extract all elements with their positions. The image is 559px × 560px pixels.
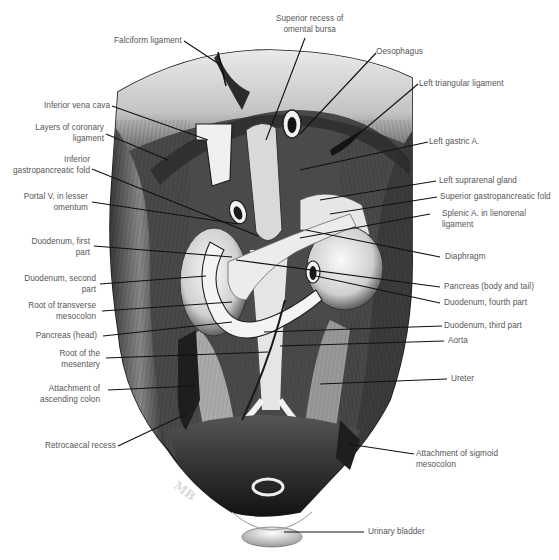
label-root-of-transverse-mesocolon: Root of transverse mesocolon <box>28 301 96 322</box>
label-layers-of-coronary-ligament: Layers of coronary ligament <box>35 123 104 144</box>
label-duodenum-first-part: Duodenum, first part <box>31 237 90 258</box>
label-left-gastric-a: Left gastric A. <box>429 137 479 148</box>
label-portal-v-in-lesser-omentum: Portal V. in lesser omentum <box>24 192 88 213</box>
label-urinary-bladder: Urinary bladder <box>368 527 425 538</box>
label-left-suprarenal-gland: Left suprarenal gland <box>439 176 517 187</box>
label-inferior-vena-cava: Inferior vena cava <box>44 101 110 112</box>
label-superior-recess-of-omental-bursa: Superior recess of omental bursa <box>276 14 343 35</box>
label-duodenum-third-part: Duodenum, third part <box>444 321 522 332</box>
label-root-of-the-mesentery: Root of the mesentery <box>59 349 100 370</box>
label-oesophagus: Oesophagus <box>376 47 423 58</box>
label-attachment-of-sigmoid-mesocolon: Attachment of sigmoid mesocolon <box>416 449 498 470</box>
label-pancreas-head: Pancreas (head) <box>36 331 97 342</box>
label-ureter: Ureter <box>451 374 474 385</box>
label-left-triangular-ligament: Left triangular ligament <box>419 79 504 90</box>
label-pancreas-body-and-tail: Pancreas (body and tail) <box>444 282 534 293</box>
posterior-abdominal-wall <box>110 40 420 547</box>
label-superior-gastropancreatic-fold: Superior gastropancreatic fold <box>440 192 551 203</box>
label-attachment-of-ascending-colon: Attachment of ascending colon <box>40 384 100 405</box>
label-duodenum-fourth-part: Duodenum, fourth part <box>444 298 527 309</box>
label-retrocaecal-recess: Retrocaecal recess <box>45 441 116 452</box>
label-duodenum-second-part: Duodenum, second part <box>24 274 96 295</box>
label-aorta: Aorta <box>448 336 468 347</box>
label-falciform-ligament: Falciform ligament <box>114 36 182 47</box>
label-splenic-a-in-lienorenal-ligament: Splenic A. in lienorenal ligament <box>442 209 526 230</box>
label-diaphragm: Diaphragm <box>445 252 486 263</box>
label-inferior-gastropancreatic-fold: Inferior gastropancreatic fold <box>13 155 90 176</box>
